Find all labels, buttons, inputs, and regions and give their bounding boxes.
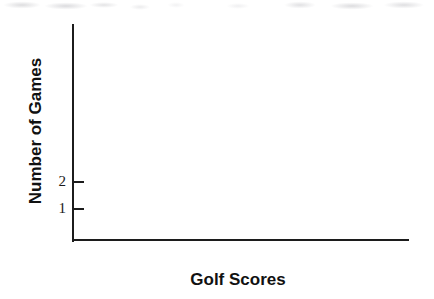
chart-figure: 2 1 Number of Games Golf Scores bbox=[0, 0, 434, 299]
plot-area bbox=[74, 24, 409, 239]
y-axis-tick-label-2-wrap: 2 bbox=[46, 174, 66, 190]
x-axis-title: Golf Scores bbox=[73, 270, 403, 290]
x-axis-line bbox=[72, 239, 409, 241]
y-axis-tick-label-1: 1 bbox=[50, 201, 66, 216]
y-axis-tick-label-1-wrap: 1 bbox=[46, 201, 66, 217]
scan-artifact bbox=[0, 0, 434, 14]
y-axis-tick-2 bbox=[74, 181, 84, 183]
y-axis-tick-label-2: 2 bbox=[50, 174, 66, 189]
y-axis-tick-1 bbox=[74, 208, 84, 210]
y-axis-title: Number of Games bbox=[26, 31, 46, 231]
